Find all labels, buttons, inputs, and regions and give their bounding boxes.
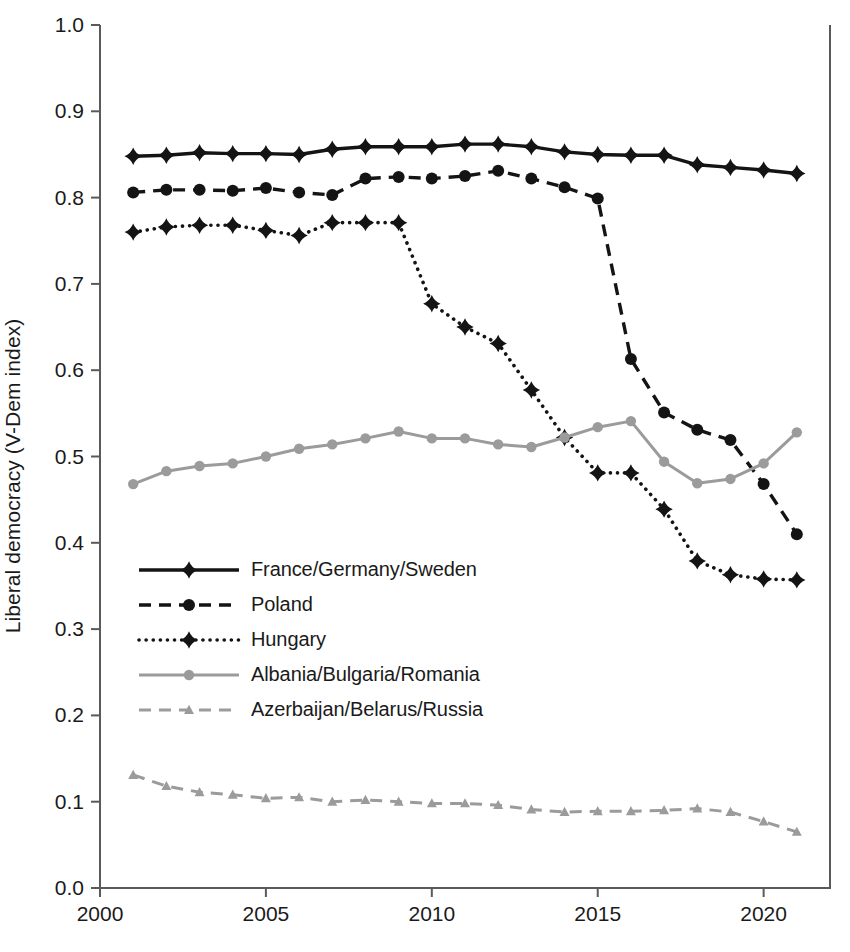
x-tick-label: 2005 [243,902,290,926]
data-point-marker [228,458,238,468]
data-point-marker [722,566,739,583]
chart-legend: France/Germany/SwedenPolandHungaryAlbani… [137,552,483,727]
data-point-marker [124,223,141,240]
y-tick-label: 1.0 [6,13,84,37]
data-point-marker [659,456,669,466]
data-point-marker [689,156,706,173]
legend-label: Hungary [251,628,326,651]
data-point-marker [489,335,506,352]
y-tick-label: 0.5 [6,445,84,469]
data-point-marker [788,571,805,588]
data-point-marker [759,816,769,825]
data-point-marker [390,214,407,231]
data-point-marker [658,406,670,418]
data-point-marker [755,161,772,178]
data-point-marker [489,135,506,152]
data-point-marker [194,461,204,471]
data-point-marker [128,479,138,489]
data-point-marker [357,214,374,231]
data-point-marker [293,186,305,198]
data-point-marker [456,318,473,335]
data-point-marker [758,458,768,468]
data-point-marker [725,807,735,816]
data-point-marker [194,184,206,196]
data-point-marker [722,159,739,176]
data-point-marker [427,433,437,443]
data-point-marker [393,171,405,183]
x-tick-label: 2010 [408,902,455,926]
data-point-marker [324,141,341,158]
data-point-marker [559,181,571,193]
data-point-marker [359,173,371,185]
data-point-marker [184,669,194,679]
data-point-marker [523,138,540,155]
y-tick-label: 0.9 [6,99,84,123]
series-4 [128,770,802,836]
data-point-marker [326,189,338,201]
data-point-marker [459,170,471,182]
legend-key-swatch [137,595,241,615]
data-point-marker [460,433,470,443]
data-point-marker [360,433,370,443]
y-tick-label: 0.1 [6,790,84,814]
data-point-marker [158,147,175,164]
legend-label: Poland [251,593,313,616]
data-point-marker [160,184,172,196]
data-point-marker [492,165,504,177]
data-point-marker [689,552,706,569]
data-point-marker [290,146,307,163]
data-point-marker [180,561,197,578]
data-point-marker [324,214,341,231]
data-point-marker [725,474,735,484]
y-tick-label: 0.3 [6,617,84,641]
legend-item-3[interactable]: Albania/Bulgaria/Romania [137,657,483,692]
x-tick-label: 2015 [574,902,621,926]
data-point-marker [224,145,241,162]
legend-label: Albania/Bulgaria/Romania [251,663,480,686]
legend-item-0[interactable]: France/Germany/Sweden [137,552,483,587]
data-point-marker [493,439,503,449]
data-point-marker [423,295,440,312]
legend-key-swatch [137,630,241,650]
data-point-marker [290,227,307,244]
data-point-marker [655,147,672,164]
data-point-marker [791,528,803,540]
data-point-marker [593,422,603,432]
data-point-marker [128,770,138,779]
data-point-marker [792,427,802,437]
data-point-marker [261,451,271,461]
data-point-marker [191,217,208,234]
legend-item-1[interactable]: Poland [137,587,483,622]
data-point-marker [622,147,639,164]
data-point-marker [124,147,141,164]
data-point-marker [526,442,536,452]
plot-area [0,0,850,952]
data-point-marker [327,439,337,449]
data-point-marker [294,444,304,454]
series-line [133,223,797,580]
data-point-marker [755,570,772,587]
legend-label: France/Germany/Sweden [251,558,477,581]
y-tick-label: 0.2 [6,703,84,727]
data-point-marker [724,434,736,446]
data-point-marker [158,218,175,235]
data-point-marker [655,500,672,517]
data-point-marker [589,146,606,163]
legend-key-swatch [137,665,241,685]
y-tick-label: 0.0 [6,876,84,900]
data-point-marker [692,478,702,488]
data-point-marker [180,631,197,648]
data-point-marker [592,192,604,204]
legend-label: Azerbaijan/Belarus/Russia [251,698,483,721]
data-point-marker [559,432,569,442]
legend-key-swatch [137,700,241,720]
y-tick-label: 0.8 [6,186,84,210]
liberal-democracy-line-chart: Liberal democracy (V-Dem index) 0.00.10.… [0,0,850,952]
data-point-marker [691,424,703,436]
legend-item-2[interactable]: Hungary [137,622,483,657]
data-point-marker [257,222,274,239]
data-point-marker [556,143,573,160]
data-point-marker [227,185,239,197]
legend-item-4[interactable]: Azerbaijan/Belarus/Russia [137,692,483,727]
y-tick-label: 0.7 [6,272,84,296]
